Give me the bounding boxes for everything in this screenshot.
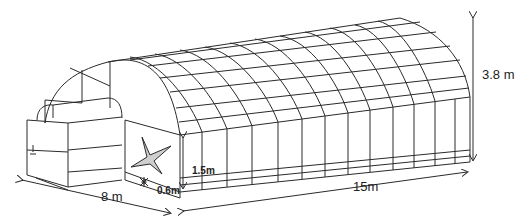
greenhouse-drawing: [0, 0, 531, 224]
dim-length-arrow: [183, 172, 467, 211]
door-handle-icon: [30, 145, 36, 154]
entrance-vestibule: [27, 98, 122, 190]
label-base-height: 0.6m: [157, 186, 180, 196]
label-length: 15m: [353, 180, 378, 193]
fan-icon: [140, 177, 148, 187]
label-sidewall-height: 1.5m: [192, 166, 215, 176]
greenhouse-diagram: 3.8 m 1.5m 0.6m 8 m 15m: [0, 0, 531, 224]
arched-roof: [45, 18, 470, 135]
label-height: 3.8 m: [482, 68, 515, 81]
label-width: 8 m: [101, 190, 123, 203]
dim-width-arrow: [22, 180, 170, 213]
star-icon: [131, 137, 171, 174]
